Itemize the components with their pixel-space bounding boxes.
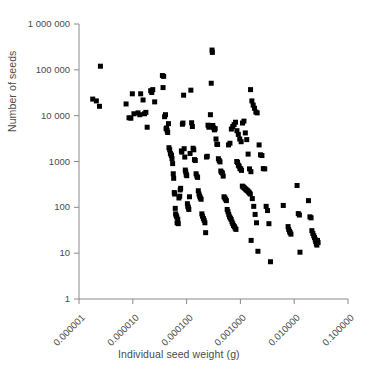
data-point-marker	[182, 146, 187, 151]
data-point-marker	[297, 213, 302, 218]
data-point-marker	[268, 259, 273, 264]
data-point-marker	[316, 240, 321, 245]
data-point-marker	[205, 154, 210, 159]
y-tick-label-wrap: 10 000	[8, 110, 70, 122]
scatter-chart-figure: Number of seeds Individual seed weight (…	[0, 0, 374, 373]
y-tick-label: 1	[8, 293, 70, 304]
y-tick-label-wrap: 1000	[8, 156, 70, 168]
data-point-marker	[295, 183, 300, 188]
data-point-marker	[143, 110, 148, 115]
data-point-marker	[97, 104, 102, 109]
data-point-marker	[173, 206, 178, 211]
data-point-marker	[248, 169, 253, 174]
data-point-marker	[177, 194, 182, 199]
y-tick-label-wrap: 1	[8, 293, 70, 305]
y-tick-label: 1000	[8, 156, 70, 167]
data-point-marker	[166, 121, 171, 126]
data-point-marker	[246, 152, 251, 157]
data-point-marker	[224, 198, 229, 203]
data-point-marker	[218, 159, 223, 164]
data-point-marker	[297, 250, 302, 255]
data-point-marker	[152, 99, 157, 104]
data-point-marker	[239, 139, 244, 144]
data-point-marker	[172, 192, 177, 197]
data-point-marker	[306, 198, 311, 203]
data-point-marker	[178, 186, 183, 191]
y-tick-label: 10 000	[8, 110, 70, 121]
data-point-marker	[227, 141, 232, 146]
y-tick-label-wrap: 10	[8, 247, 70, 259]
data-point-marker	[262, 166, 267, 171]
data-point-marker	[170, 161, 175, 166]
data-point-marker	[255, 110, 260, 115]
data-point-marker	[250, 196, 255, 201]
data-point-marker	[98, 64, 103, 69]
data-point-marker	[193, 158, 198, 163]
data-point-marker	[233, 120, 238, 125]
data-point-marker	[184, 173, 189, 178]
data-point-marker	[150, 87, 155, 92]
data-point-marker	[215, 142, 220, 147]
y-tick-label: 100 000	[8, 64, 70, 75]
data-point-marker	[221, 174, 226, 179]
data-point-marker	[171, 176, 176, 181]
data-point-marker	[244, 137, 249, 142]
y-tick-label-wrap: 100	[8, 201, 70, 213]
data-point-marker	[254, 220, 259, 225]
data-point-marker	[209, 81, 214, 86]
data-point-marker	[233, 227, 238, 232]
data-point-marker	[253, 212, 258, 217]
data-point-marker	[199, 197, 204, 202]
data-point-marker	[202, 220, 207, 225]
data-point-marker	[265, 208, 270, 213]
data-point-marker	[190, 124, 195, 129]
data-point-marker	[214, 136, 219, 141]
data-point-marker	[281, 203, 286, 208]
data-point-marker	[213, 126, 218, 131]
data-point-marker	[266, 221, 271, 226]
data-point-marker	[165, 130, 170, 135]
y-tick-label-wrap: 1 000 000	[8, 18, 70, 30]
data-point-marker	[169, 156, 174, 161]
data-point-marker	[124, 101, 129, 106]
data-point-marker	[161, 74, 166, 79]
data-point-marker	[163, 112, 168, 117]
data-point-marker	[249, 238, 254, 243]
data-point-marker	[255, 249, 260, 254]
data-point-marker	[94, 98, 99, 103]
data-point-marker	[138, 91, 143, 96]
data-point-marker	[141, 97, 146, 102]
data-point-marker	[208, 112, 213, 117]
y-tick-label: 100	[8, 201, 70, 212]
axis-lines	[79, 24, 348, 299]
data-point-marker	[195, 175, 200, 180]
data-point-marker	[257, 142, 262, 147]
data-point-marker	[171, 171, 176, 176]
data-point-marker	[248, 87, 253, 92]
data-point-marker	[191, 147, 196, 152]
data-point-marker	[175, 217, 180, 222]
data-point-marker	[243, 130, 248, 135]
data-point-marker	[288, 232, 293, 237]
data-point-marker	[181, 93, 186, 98]
data-point-marker	[259, 153, 264, 158]
data-point-marker	[145, 125, 150, 130]
data-point-marker	[309, 215, 314, 220]
y-axis-ticks	[74, 24, 79, 299]
data-point-marker	[239, 168, 244, 173]
data-point-marker	[186, 207, 191, 212]
data-point-marker	[236, 132, 241, 137]
data-point-marker	[128, 116, 133, 121]
data-point-marker	[241, 119, 246, 124]
data-point-group	[90, 48, 320, 265]
data-point-marker	[130, 91, 135, 96]
data-point-marker	[137, 112, 142, 117]
data-point-marker	[176, 221, 181, 226]
data-point-marker	[203, 230, 208, 235]
data-point-marker	[187, 194, 192, 199]
y-tick-label-wrap: 100 000	[8, 64, 70, 76]
y-tick-label: 10	[8, 247, 70, 258]
data-point-marker	[182, 155, 187, 160]
data-point-marker	[161, 85, 166, 90]
data-point-marker	[210, 50, 215, 55]
